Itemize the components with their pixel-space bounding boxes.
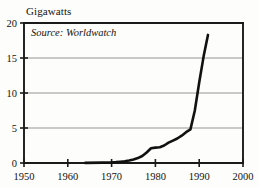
x-tick-label: 1970 [101,171,122,182]
y-tick-label: 20 [0,18,17,29]
y-tick-label: 0 [0,158,17,169]
chart-axis-title: Gigawatts [26,5,72,17]
x-tick-label: 1960 [57,171,78,182]
x-tick-label: 2000 [233,171,254,182]
x-tick-label: 1950 [14,171,35,182]
source-annotation: Source: Worldwatch [31,27,116,38]
chart-figure: Gigawatts Source: Worldwatch 05101520 19… [0,0,259,188]
x-tick-label: 1990 [189,171,210,182]
x-tick-label: 1980 [145,171,166,182]
data-line-series-0 [85,35,208,163]
y-tick-label: 10 [0,88,17,99]
y-tick-label: 15 [0,53,17,64]
y-tick-label: 5 [0,123,17,134]
